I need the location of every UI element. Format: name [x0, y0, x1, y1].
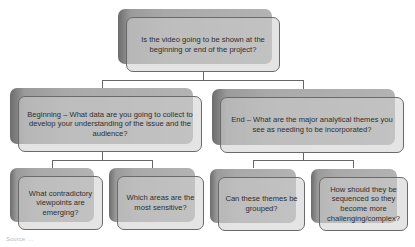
connector — [253, 160, 354, 161]
grouped-question: Can these themes be grouped? — [218, 177, 305, 231]
contradictory-question: What contradictory viewpoints are emergi… — [18, 176, 103, 230]
end-question: End – What are the major analytical them… — [220, 97, 404, 153]
connector — [52, 160, 153, 161]
connector — [52, 160, 53, 168]
connector — [102, 80, 304, 81]
sensitive-question: Which areas are the most sensitive? — [117, 176, 204, 230]
connector — [203, 72, 204, 80]
sequenced-question: How should they be sequenced so they bec… — [319, 177, 408, 231]
root-question: Is the video going to be shown at the be… — [126, 17, 280, 72]
connector — [152, 160, 153, 168]
connector — [353, 160, 354, 168]
connector — [102, 152, 103, 160]
connector — [253, 160, 254, 168]
source-caption: Source: ... — [6, 236, 33, 242]
connector — [303, 153, 304, 160]
beginning-question: Beginning – What data are you going to c… — [18, 96, 202, 152]
